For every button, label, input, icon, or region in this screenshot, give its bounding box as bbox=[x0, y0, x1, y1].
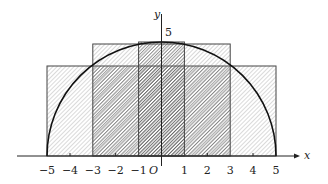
x-tick-label: 2 bbox=[204, 164, 211, 177]
x-tick-labels: −5 −4 −3 −2 −1 1 2 3 4 5 bbox=[39, 164, 280, 177]
x-tick-label: 5 bbox=[273, 164, 280, 177]
x-tick-label: −2 bbox=[108, 164, 124, 177]
x-tick-label: 3 bbox=[227, 164, 234, 177]
y-tick-5: 5 bbox=[165, 26, 172, 39]
x-tick-label: −4 bbox=[62, 164, 78, 177]
x-axis-label: x bbox=[304, 149, 311, 162]
semicircle-diagram: x y 5 O −5 −4 −3 −2 −1 1 2 3 4 5 bbox=[0, 0, 328, 184]
origin-label: O bbox=[149, 164, 158, 177]
x-axis-arrow-icon bbox=[294, 154, 300, 159]
x-tick-label: −3 bbox=[85, 164, 101, 177]
x-tick-label: 1 bbox=[181, 164, 188, 177]
x-tick-label: −5 bbox=[39, 164, 55, 177]
x-tick-label: 4 bbox=[250, 164, 257, 177]
x-tick-label: −1 bbox=[130, 164, 146, 177]
y-axis-label: y bbox=[153, 8, 161, 21]
